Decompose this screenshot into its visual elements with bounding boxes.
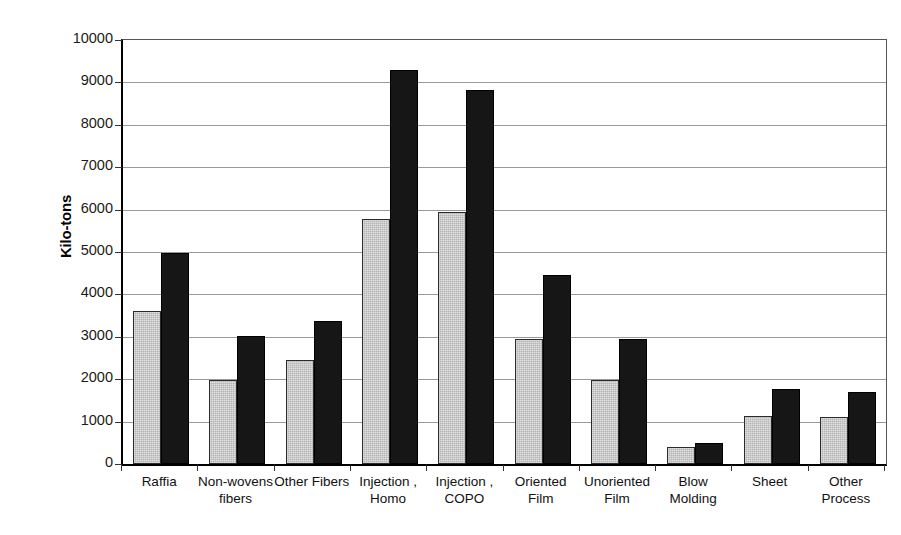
x-axis-label-line-1: Oriented [515,474,567,489]
y-axis-tick-mark [115,422,122,423]
y-axis-tick-label: 2000 [43,369,113,385]
y-axis-tick-label: 6000 [43,200,113,216]
bar-injection-homo-series-1 [362,219,390,464]
x-axis-label-line-1: Unoriented [584,474,650,489]
bar-group [657,40,733,464]
bar-injection-copo-series-1 [438,212,466,464]
y-axis-tick-labels: 1000090008000700060005000400030002000100… [35,39,113,463]
x-axis-tick-mark [655,465,656,471]
y-axis-tick-mark [115,210,122,211]
bar-group [581,40,657,464]
y-axis-tick-mark [115,82,122,83]
bar-group [352,40,428,464]
bar-raffia-series-2 [161,253,189,464]
y-axis-tick-label: 1000 [43,412,113,428]
x-axis-label-line-1: Injection , [435,474,493,489]
bar-injection-homo-series-2 [390,70,418,464]
x-axis-label-line-2: Molding [647,490,739,507]
bar-group [199,40,275,464]
bar-group [123,40,199,464]
bar-oriented-film-series-1 [515,339,543,464]
x-axis-label-line-1: Blow [679,474,708,489]
bar-group [810,40,886,464]
x-axis-label-other-process: OtherProcess [800,473,892,507]
x-axis-tick-mark [350,465,351,471]
plot-area [121,39,887,466]
x-axis-label-line-2: Process [800,490,892,507]
y-axis-tick-mark [115,294,122,295]
bar-blow-molding-series-1 [667,447,695,464]
y-axis-tick-label: 5000 [43,242,113,258]
bar-sheet-series-1 [744,416,772,464]
bar-non-wovens-fibers-series-1 [209,380,237,464]
bar-non-wovens-fibers-series-2 [237,336,265,464]
bar-group [276,40,352,464]
y-axis-tick-mark [115,40,122,41]
x-axis-tick-mark [884,465,885,471]
bar-unoriented-film-series-2 [619,339,647,465]
x-axis-label-line-1: Other Fibers [274,474,349,489]
bar-sheet-series-2 [772,389,800,464]
y-axis-tick-mark [115,252,122,253]
x-axis-label-line-2: fibers [189,490,281,507]
y-axis-tick-label: 0 [43,454,113,470]
y-axis-tick-mark [115,125,122,126]
x-axis-label-line-1: Injection , [359,474,417,489]
x-axis-tick-mark [121,465,122,471]
bar-raffia-series-1 [133,311,161,464]
bar-chart-figure: Kilo-tons 100009000800070006000500040003… [0,0,901,535]
bar-group [505,40,581,464]
bars-layer [123,40,886,464]
x-axis-tick-marks [121,465,884,472]
y-axis-tick-label: 8000 [43,115,113,131]
y-axis-tick-mark [115,167,122,168]
bar-unoriented-film-series-1 [591,380,619,464]
y-axis-tick-label: 9000 [43,72,113,88]
bar-other-process-series-2 [848,392,876,464]
x-axis-tick-mark [579,465,580,471]
bar-group [428,40,504,464]
bar-blow-molding-series-2 [695,443,723,464]
bar-injection-copo-series-2 [466,90,494,464]
bar-group [733,40,809,464]
x-axis-label-line-1: Non-wovens [198,474,273,489]
x-axis-tick-mark [274,465,275,471]
bar-oriented-film-series-2 [543,275,571,464]
y-axis-tick-mark [115,337,122,338]
bar-other-fibers-series-2 [314,321,342,464]
y-axis-tick-label: 4000 [43,284,113,300]
y-axis-tick-label: 3000 [43,327,113,343]
y-axis-tick-mark [115,379,122,380]
x-axis-tick-mark [503,465,504,471]
x-axis-tick-mark [808,465,809,471]
x-axis-category-labels: RaffiaNon-wovensfibersOther FibersInject… [121,473,884,529]
y-axis-tick-label: 7000 [43,157,113,173]
x-axis-label-line-1: Sheet [752,474,787,489]
x-axis-tick-mark [731,465,732,471]
x-axis-tick-mark [197,465,198,471]
y-axis-tick-label: 10000 [43,30,113,46]
bar-other-process-series-1 [820,417,848,464]
bar-other-fibers-series-1 [286,360,314,464]
x-axis-label-line-1: Raffia [142,474,177,489]
x-axis-label-line-1: Other [829,474,863,489]
x-axis-tick-mark [426,465,427,471]
